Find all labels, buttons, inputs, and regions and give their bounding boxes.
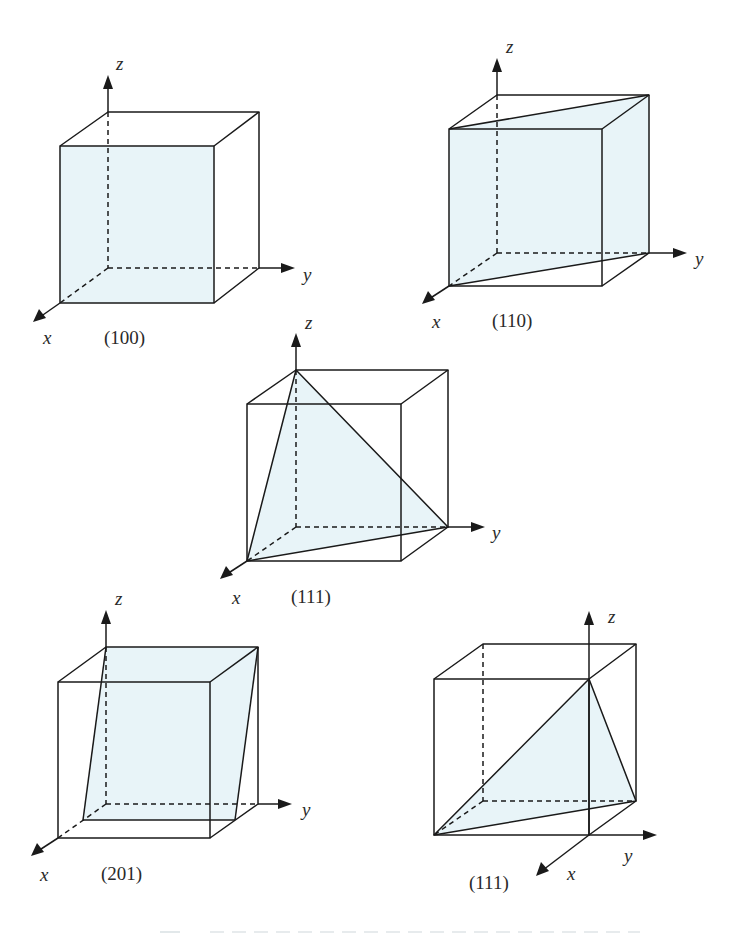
y-axis-arrow-icon [643, 830, 657, 840]
z-axis-arrow-icon [103, 75, 113, 89]
miller-index-label: (100) [104, 327, 145, 349]
panel-111-center: z y x (111) [220, 312, 501, 608]
y-axis-label: y [301, 264, 312, 285]
panel-201: z y x (201) [31, 588, 311, 885]
z-axis-label: z [114, 588, 123, 609]
panel-110: z y x (110) [422, 36, 704, 332]
plane-111-shifted [434, 679, 636, 835]
miller-index-label: (111) [291, 586, 331, 608]
z-axis-label: z [505, 36, 514, 57]
miller-index-label: (111) [469, 872, 509, 894]
panel-100: z y x (100) [33, 53, 312, 349]
z-axis-arrow-icon [291, 333, 301, 347]
z-axis-label: z [607, 606, 616, 627]
y-axis-arrow-icon [471, 522, 485, 532]
x-axis-arrow-icon [220, 566, 233, 579]
x-axis-arrow-icon [422, 291, 435, 304]
x-axis-label: x [566, 863, 576, 884]
plane-201 [83, 647, 258, 820]
y-axis-label: y [622, 845, 633, 866]
x-axis-arrow-icon [31, 843, 44, 856]
x-axis-label: x [231, 587, 241, 608]
y-axis-arrow-icon [281, 263, 295, 273]
y-axis-label: y [693, 248, 704, 269]
z-axis-arrow-icon [101, 610, 111, 624]
miller-index-label: (201) [101, 863, 142, 885]
x-axis-label: x [431, 311, 441, 332]
crystal-planes-figure: z y x (100) z y x (110) [0, 0, 746, 934]
miller-index-label: (110) [492, 310, 532, 332]
panel-111-right: z y x (111) [434, 606, 657, 894]
y-axis-label: y [490, 522, 501, 543]
z-axis-arrow-icon [492, 58, 502, 72]
z-axis-arrow-icon [584, 611, 594, 625]
z-axis-label: z [115, 53, 124, 74]
x-axis-arrow-icon [536, 862, 549, 876]
z-axis-label: z [304, 312, 313, 333]
x-axis-label: x [39, 864, 49, 885]
x-axis-arrow-icon [33, 309, 46, 322]
x-axis-label: x [42, 327, 52, 348]
y-axis-arrow-icon [278, 799, 292, 809]
plane-100 [60, 146, 214, 303]
y-axis-label: y [300, 799, 311, 820]
y-axis-arrow-icon [673, 248, 687, 258]
